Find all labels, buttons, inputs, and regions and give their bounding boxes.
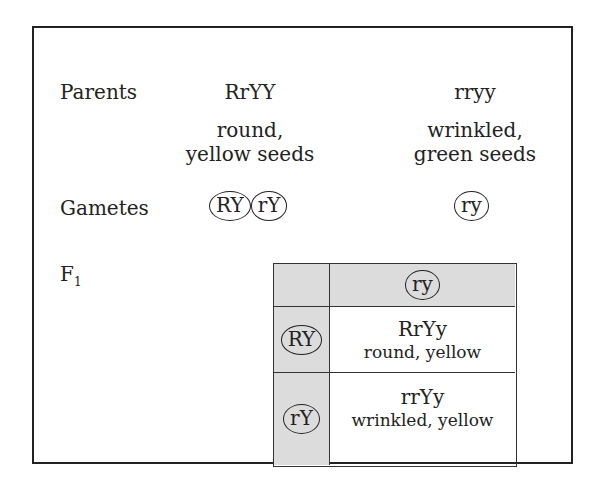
- parent2-phenotype-line1: wrinkled,: [405, 118, 545, 142]
- gamete-circle: ry: [405, 270, 440, 300]
- parent1-gametes: RY rY: [209, 191, 287, 221]
- gamete-circle: rY: [283, 404, 320, 434]
- offspring-genotype: rrYy: [401, 385, 445, 409]
- parents-label: Parents: [60, 80, 137, 104]
- parent2-genotype: rryy: [410, 80, 540, 104]
- column-header-cell: ry: [330, 264, 515, 307]
- offspring-genotype: RrYy: [398, 317, 447, 341]
- parent2-gametes: ry: [454, 191, 489, 221]
- f1-label-subscript: 1: [74, 275, 82, 289]
- punnett-square: ry RY RrYy round, yellow rY rrYy wrinkle…: [273, 263, 517, 467]
- parent2-phenotype-line2: green seeds: [405, 142, 545, 166]
- offspring-cell: RrYy round, yellow: [330, 307, 515, 373]
- parent1-genotype: RrYY: [190, 80, 310, 104]
- parent1-phenotype-line2: yellow seeds: [180, 142, 320, 166]
- gamete-circle: ry: [454, 191, 489, 221]
- row-header-cell: rY: [274, 373, 330, 465]
- corner-cell: [274, 264, 330, 307]
- offspring-phenotype: wrinkled, yellow: [352, 409, 494, 431]
- gamete-circle: rY: [251, 191, 288, 221]
- gametes-label: Gametes: [60, 196, 149, 220]
- offspring-phenotype: round, yellow: [364, 341, 481, 363]
- row-header-cell: RY: [274, 307, 330, 373]
- gamete-circle: RY: [209, 191, 251, 221]
- parent1-phenotype-line1: round,: [180, 118, 320, 142]
- f1-label-main: F: [60, 262, 74, 286]
- gamete-circle: RY: [281, 325, 323, 355]
- f1-label: F1: [60, 262, 82, 294]
- offspring-cell: rrYy wrinkled, yellow: [330, 373, 515, 465]
